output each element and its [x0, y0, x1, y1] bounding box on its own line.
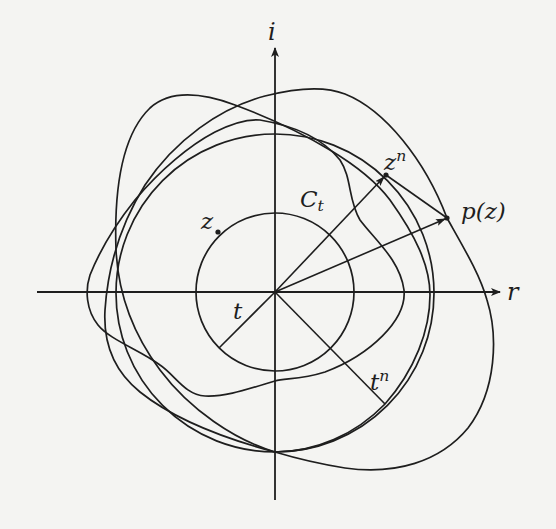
- point-pz-dot: [444, 215, 449, 220]
- point-zn-label-base: z: [384, 149, 396, 175]
- vector-zn: [275, 177, 384, 292]
- wavy-image-curve: [87, 120, 404, 396]
- point-z-label: z: [201, 210, 213, 233]
- circle-ct-label-base: C: [300, 186, 318, 212]
- radius-t-label: t: [233, 300, 242, 323]
- real-axis-label: r: [507, 280, 518, 304]
- point-z-dot: [215, 229, 220, 234]
- imaginary-axis-label: i: [268, 20, 276, 44]
- circle-ct-label-sub: t: [318, 196, 324, 215]
- point-zn-label-exp: n: [396, 146, 406, 165]
- tall-image-curve: [116, 95, 430, 452]
- radius-tn-label-base: t: [370, 369, 379, 395]
- vector-pz: [275, 219, 445, 292]
- outer-image-curve: [105, 89, 494, 470]
- complex-plane-diagram: i r Ct z zn p(z) t tn: [0, 0, 556, 529]
- point-zn-label: zn: [384, 148, 406, 174]
- point-pz-label: p(z): [461, 200, 506, 223]
- radius-t: [219, 292, 275, 348]
- radius-tn-label-exp: n: [379, 366, 389, 385]
- radius-tn-label: tn: [370, 368, 389, 394]
- diagram-canvas: [0, 0, 556, 529]
- circle-ct-label: Ct: [300, 188, 324, 214]
